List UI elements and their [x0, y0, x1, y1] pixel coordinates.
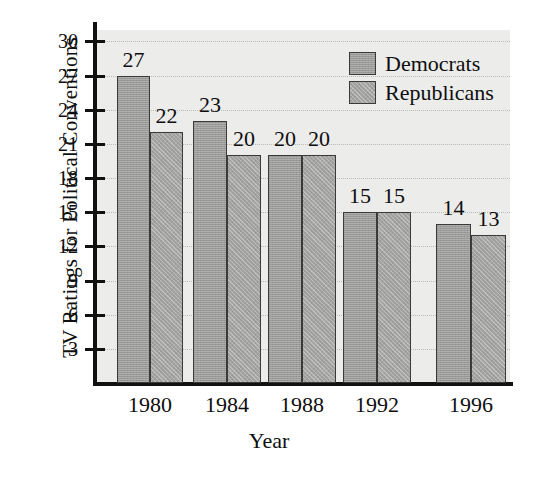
- y-axis-tick: [85, 211, 105, 214]
- bar-value-label: 22: [156, 103, 178, 129]
- bar-value-label: 27: [123, 47, 145, 73]
- bar-republicans-1992: [377, 212, 411, 383]
- legend-swatch-republicans-icon: [349, 81, 376, 104]
- y-axis-tick: [85, 40, 105, 43]
- legend-label-republicans: Republicans: [385, 80, 494, 106]
- y-axis-tick-label: 9: [40, 269, 78, 292]
- y-axis-tick-label: 18: [40, 167, 78, 190]
- bar-value-label: 13: [478, 206, 500, 232]
- y-axis-tick: [85, 177, 105, 180]
- legend-item-republicans: Republicans: [349, 78, 494, 107]
- bar-value-label: 15: [383, 183, 405, 209]
- bar-republicans-1988: [302, 155, 336, 383]
- y-axis-tick: [85, 245, 105, 248]
- bar-democrats-1984: [193, 121, 227, 383]
- y-axis-tick-label: 12: [40, 235, 78, 258]
- bar-republicans-1984: [227, 155, 261, 383]
- y-axis-tick-label: 27: [40, 64, 78, 87]
- bar-democrats-1988: [268, 155, 302, 383]
- legend-item-democrats: Democrats: [349, 49, 494, 78]
- bar-democrats-1996: [436, 224, 471, 383]
- x-axis-tick-label-1992: 1992: [355, 392, 399, 418]
- y-axis-tick: [85, 109, 105, 112]
- legend-label-democrats: Democrats: [385, 51, 480, 77]
- y-axis-tick: [85, 280, 105, 283]
- bar-value-label: 20: [274, 126, 296, 152]
- bar-value-label: 14: [443, 195, 465, 221]
- gridline: [97, 41, 510, 42]
- y-axis-tick-label: 15: [40, 201, 78, 224]
- x-axis-tick-label-1980: 1980: [128, 392, 172, 418]
- bar-democrats-1980: [117, 76, 150, 383]
- y-axis-tick: [85, 143, 105, 146]
- x-axis-tick-label-1996: 1996: [449, 392, 493, 418]
- y-axis-tick: [85, 348, 105, 351]
- chart-legend: Democrats Republicans: [349, 49, 494, 107]
- bar-value-label: 20: [308, 126, 330, 152]
- y-axis-tick-label: 30: [40, 30, 78, 53]
- y-axis-tick-label: 3: [40, 337, 78, 360]
- x-axis-tick-label-1988: 1988: [280, 392, 324, 418]
- y-axis-tick: [85, 314, 105, 317]
- x-axis-tick-label-1984: 1984: [205, 392, 249, 418]
- y-axis-tick-label: 21: [40, 132, 78, 155]
- bar-republicans-1996: [471, 235, 506, 383]
- y-axis-tick-label: 6: [40, 303, 78, 326]
- y-axis-tick-label: 24: [40, 98, 78, 121]
- bar-value-label: 20: [233, 126, 255, 152]
- legend-swatch-democrats-icon: [349, 52, 376, 75]
- x-axis-title: Year: [0, 428, 538, 454]
- bar-chart-figure: TV Ratings for Political Conventions 369…: [0, 0, 538, 480]
- y-axis-tick: [85, 75, 105, 78]
- bar-value-label: 23: [199, 92, 221, 118]
- bar-republicans-1980: [150, 132, 183, 383]
- bar-democrats-1992: [343, 212, 377, 383]
- bar-value-label: 15: [349, 183, 371, 209]
